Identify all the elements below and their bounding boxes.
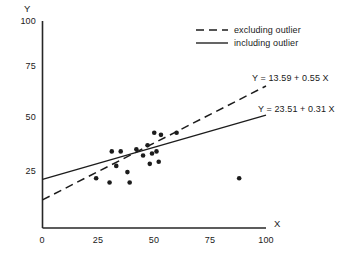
data-point [134,147,139,152]
legend-label-excluding-outlier: excluding outlier [234,25,301,35]
data-point [125,170,130,175]
data-point [174,130,179,135]
data-point [156,159,161,164]
data-point [152,130,157,135]
x-tick-label-75: 75 [197,235,223,245]
data-point [141,153,146,158]
data-point [109,149,114,154]
data-point [150,151,155,156]
x-tick-label-0: 0 [29,235,55,245]
data-point [145,143,150,148]
y-axis-title: Y [24,3,31,14]
legend-lines-group [196,30,228,43]
x-axis-title: X [274,218,281,229]
data-point [107,180,112,185]
data-point [114,164,119,169]
equation-label-including-outlier: Y = 23.51 + 0.31 X [258,104,335,114]
data-point [118,149,123,154]
legend-label-including-outlier: including outlier [234,38,298,48]
equation-label-excluding-outlier: Y = 13.59 + 0.55 X [252,73,329,83]
y-tick-label-50: 50 [10,112,36,122]
x-tick-label-100: 100 [253,235,279,245]
y-tick-label-100: 100 [10,16,36,26]
scatter-plot-figure: Y X 100 75 50 25 0 25 50 75 100 excludin… [0,0,363,258]
y-tick-label-25: 25 [10,166,36,176]
x-tick-label-25: 25 [85,235,111,245]
data-point [147,162,152,167]
data-point [154,149,159,154]
data-point-outlier [237,176,242,181]
data-point [94,176,99,181]
regression-line-including-outlier [43,115,267,179]
regression-line-excluding-outlier [43,86,267,200]
plot-canvas [0,0,363,258]
data-point [127,180,132,185]
y-tick-label-75: 75 [10,61,36,71]
x-tick-label-50: 50 [141,235,167,245]
regression-lines-group [43,86,267,200]
data-point [159,133,164,138]
